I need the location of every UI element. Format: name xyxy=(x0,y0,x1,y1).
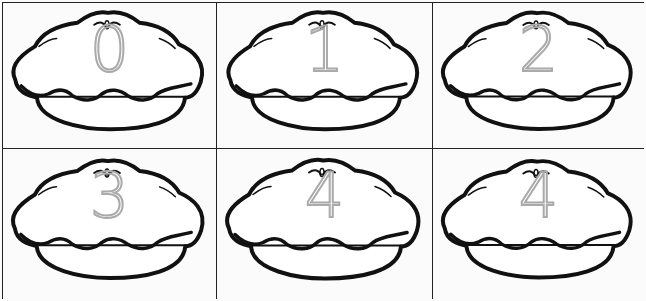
trace-number: 4 xyxy=(305,165,344,227)
trace-number: 0 xyxy=(90,19,129,81)
trace-number: 2 xyxy=(519,19,558,81)
pie-cell: 0 xyxy=(2,2,217,149)
trace-number: 1 xyxy=(305,19,344,81)
pie-cell: 2 xyxy=(433,2,644,149)
pie-cell: 3 xyxy=(2,149,217,299)
trace-number: 3 xyxy=(90,165,129,227)
pie-cell: 4 xyxy=(217,149,433,299)
pie-cell: 4 xyxy=(433,149,644,299)
pie-cell: 1 xyxy=(217,2,433,149)
trace-number: 4 xyxy=(519,165,558,227)
pie-grid: 0 1 2 3 4 4 xyxy=(2,2,644,299)
worksheet: 0 1 2 3 4 4 xyxy=(0,0,646,301)
